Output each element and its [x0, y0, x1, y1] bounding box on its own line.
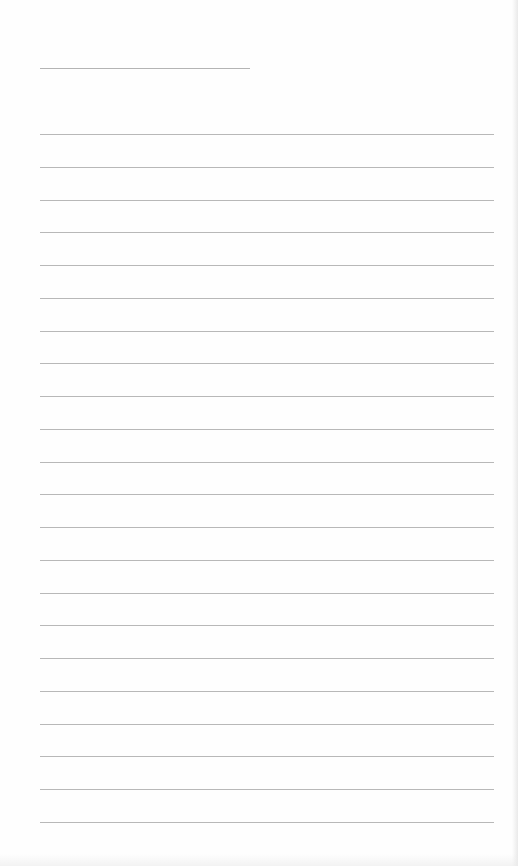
- ruled-line: [40, 658, 494, 659]
- ruled-line: [40, 298, 494, 299]
- page-bottom-shadow: [0, 854, 518, 866]
- ruled-line: [40, 331, 494, 332]
- ruled-line: [40, 265, 494, 266]
- ruled-line: [40, 625, 494, 626]
- ruled-line: [40, 232, 494, 233]
- ruled-line: [40, 494, 494, 495]
- page-edge-shadow: [512, 0, 518, 866]
- ruled-line: [40, 134, 494, 135]
- ruled-line: [40, 724, 494, 725]
- ruled-line: [40, 560, 494, 561]
- ruled-line: [40, 789, 494, 790]
- ruled-line: [40, 462, 494, 463]
- ruled-line: [40, 200, 494, 201]
- ruled-line: [40, 756, 494, 757]
- ruled-line: [40, 396, 494, 397]
- ruled-line: [40, 691, 494, 692]
- ruled-line: [40, 822, 494, 823]
- ruled-line: [40, 167, 494, 168]
- lined-page: [0, 0, 518, 866]
- title-line: [40, 68, 250, 69]
- ruled-line: [40, 527, 494, 528]
- ruled-line: [40, 429, 494, 430]
- ruled-line: [40, 363, 494, 364]
- ruled-line: [40, 593, 494, 594]
